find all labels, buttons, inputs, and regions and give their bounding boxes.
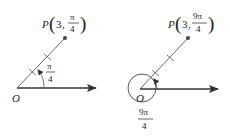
tick-mark-2b <box>167 55 174 61</box>
point-p-2 <box>186 36 190 40</box>
angle-num-1: π <box>47 61 52 71</box>
angle-num-2: 9π <box>139 107 149 117</box>
point-label-1: P <box>41 18 49 30</box>
coord-theta-den-1: 4 <box>70 24 75 34</box>
origin-label-1: O <box>12 92 20 104</box>
ray-2 <box>140 38 188 89</box>
diagram-2: O P ( 3 , 9π 4 ) 9π 4 <box>128 11 218 131</box>
paren-close-1: ) <box>80 13 86 35</box>
origin-label-2: O <box>136 92 144 104</box>
angle-den-2: 4 <box>142 121 147 131</box>
paren-close-2: ) <box>208 13 214 35</box>
point-label-2: P <box>167 18 175 30</box>
ray-1 <box>17 38 65 88</box>
coord-comma-1: , <box>62 18 65 30</box>
coord-theta-num-2: 9π <box>193 11 203 21</box>
paren-open-1: ( <box>49 13 55 35</box>
coord-comma-2: , <box>188 18 191 30</box>
diagram-1: O P ( 3 , π 4 ) π 4 <box>12 12 96 104</box>
paren-open-2: ( <box>175 13 181 35</box>
point-p-1 <box>63 36 67 40</box>
angle-arc-1 <box>38 70 44 88</box>
coord-theta-den-2: 4 <box>196 24 201 34</box>
coord-theta-num-1: π <box>70 12 75 22</box>
angle-den-1: 4 <box>48 74 53 84</box>
